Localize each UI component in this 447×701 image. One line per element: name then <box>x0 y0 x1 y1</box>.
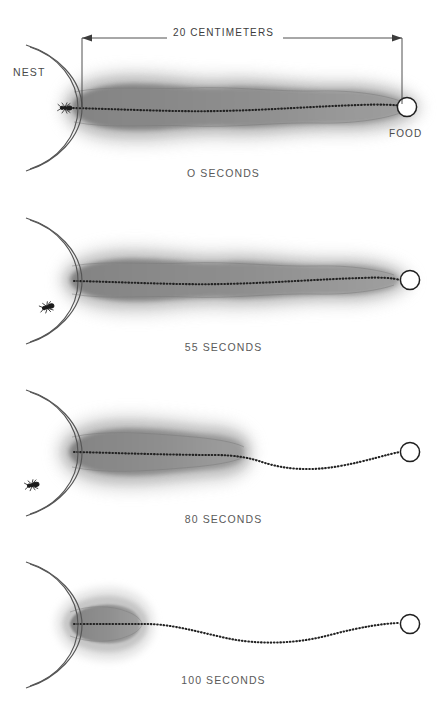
food-source-marker-0 <box>397 97 416 116</box>
panel-caption-1: 55 SECONDS <box>0 341 447 353</box>
food-source-marker-100 <box>400 614 419 633</box>
food-source-marker-80 <box>400 442 419 461</box>
panel-caption-2: 80 SECONDS <box>0 513 447 525</box>
nest-label: NEST <box>13 66 45 78</box>
ant-icon-80 <box>24 479 40 492</box>
ant-icon-55 <box>38 300 55 314</box>
panel-55-seconds <box>26 218 420 344</box>
food-source-marker-55 <box>400 270 419 289</box>
dimension-label: 20 CENTIMETERS <box>0 27 447 38</box>
panel-0-seconds <box>26 35 423 171</box>
food-label: FOOD <box>389 128 422 139</box>
panel-100-seconds <box>26 562 420 688</box>
panel-80-seconds <box>24 390 420 516</box>
panel-caption-0: O SECONDS <box>0 167 447 179</box>
panel-caption-3: 100 SECONDS <box>0 674 447 686</box>
pheromone-plume-0 <box>60 69 423 145</box>
pheromone-plume-55 <box>58 244 413 316</box>
